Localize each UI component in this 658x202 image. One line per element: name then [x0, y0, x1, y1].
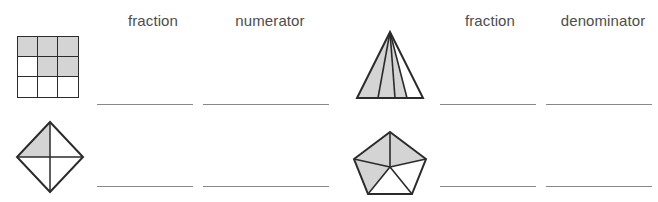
answer-line-left-row2-numerator[interactable]: [203, 186, 329, 187]
grid-cell-1-2: [38, 37, 58, 57]
answer-line-right-row2-denominator[interactable]: [546, 186, 652, 187]
answer-line-left-row1-numerator[interactable]: [203, 104, 329, 105]
column-header-right-fraction: fraction: [445, 12, 535, 30]
shape-triangle-quartered: [352, 28, 432, 104]
answer-line-right-row1-denominator[interactable]: [546, 104, 652, 105]
grid-cell-3-2: [38, 77, 58, 97]
grid-cell-2-3: [58, 57, 78, 77]
grid-cell-1-1: [18, 37, 38, 57]
answer-line-left-row2-fraction[interactable]: [97, 186, 193, 187]
grid-cell-3-3: [58, 77, 78, 97]
grid-cell-2-1: [18, 57, 38, 77]
fraction-worksheet: fraction numerator fraction denominator: [0, 0, 658, 202]
answer-line-right-row2-fraction[interactable]: [440, 186, 536, 187]
column-header-left-numerator: numerator: [215, 12, 325, 30]
column-header-right-denominator: denominator: [548, 12, 658, 30]
shape-diamond-quartered: [12, 118, 88, 196]
grid-cell-3-1: [18, 77, 38, 97]
answer-line-right-row1-fraction[interactable]: [440, 104, 536, 105]
shape-pentagon-fifths: [350, 128, 434, 200]
shape-three-by-three-grid: [17, 36, 79, 98]
answer-line-left-row1-fraction[interactable]: [97, 104, 193, 105]
grid-cell-2-2: [38, 57, 58, 77]
column-header-left-fraction: fraction: [108, 12, 198, 30]
grid-cell-1-3: [58, 37, 78, 57]
